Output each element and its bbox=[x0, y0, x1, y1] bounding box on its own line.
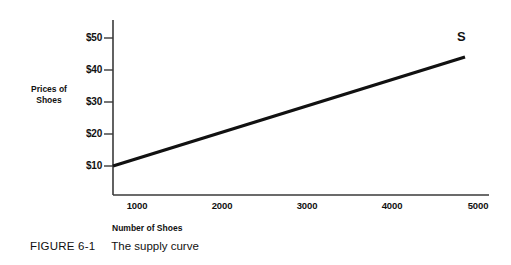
y-tick-label-40: $40 bbox=[72, 64, 102, 75]
y-axis-title-line1: Prices of bbox=[20, 84, 78, 95]
x-tick-label-5000: 5000 bbox=[458, 200, 498, 211]
supply-curve-line bbox=[113, 57, 465, 166]
series-label-supply: S bbox=[457, 29, 466, 44]
x-tick-label-2000: 2000 bbox=[202, 200, 242, 211]
y-tick-label-10: $10 bbox=[72, 160, 102, 171]
x-tick-label-1000: 1000 bbox=[117, 200, 157, 211]
x-tick-label-4000: 4000 bbox=[372, 200, 412, 211]
y-axis-title: Prices of Shoes bbox=[20, 84, 78, 106]
figure-caption-number: FIGURE 6-1 bbox=[30, 240, 95, 252]
y-axis-title-line2: Shoes bbox=[20, 95, 78, 106]
x-tick-label-3000: 3000 bbox=[287, 200, 327, 211]
figure-caption: FIGURE 6-1The supply curve bbox=[30, 240, 199, 252]
figure-supply-curve: $50 $40 $30 $20 $10 1000 2000 3000 4000 … bbox=[0, 0, 511, 265]
x-axis-title: Number of Shoes bbox=[112, 223, 182, 233]
y-tick-label-20: $20 bbox=[72, 128, 102, 139]
figure-caption-text: The supply curve bbox=[111, 240, 199, 252]
y-tick-label-50: $50 bbox=[72, 32, 102, 43]
